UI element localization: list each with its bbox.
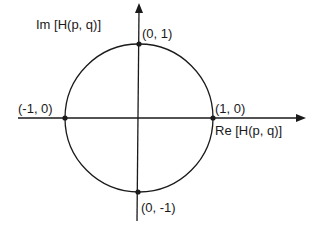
label-right: (1, 0) [215, 102, 245, 115]
point-left [62, 115, 67, 120]
imaginary-axis-arrow-icon [135, 3, 143, 13]
point-top [136, 41, 141, 46]
label-bottom: (0, -1) [141, 201, 176, 214]
real-axis-arrow-icon [296, 114, 306, 122]
x-axis-label: Re [H(p, q)] [215, 124, 282, 137]
point-right [210, 115, 215, 120]
label-left: (-1, 0) [18, 102, 53, 115]
label-top: (0, 1) [142, 27, 172, 40]
y-axis-label: Im [H(p, q)] [36, 18, 101, 31]
point-bottom [135, 189, 140, 194]
